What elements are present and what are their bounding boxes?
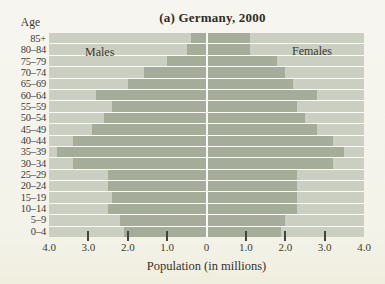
age-tick-label: 20–24 bbox=[0, 180, 46, 191]
x-tick-label: 2.0 bbox=[268, 241, 302, 253]
age-tick-label: 15–19 bbox=[0, 192, 46, 203]
female-bar bbox=[207, 215, 286, 225]
x-tick-label: 3.0 bbox=[308, 241, 342, 253]
males-series-label: Males bbox=[85, 45, 114, 60]
male-bar bbox=[112, 192, 207, 202]
female-bar bbox=[207, 181, 298, 191]
male-bar bbox=[73, 136, 207, 146]
x-axis-tick bbox=[284, 231, 286, 241]
female-bar bbox=[207, 67, 286, 77]
female-bar bbox=[207, 33, 250, 43]
female-bar bbox=[207, 136, 333, 146]
female-bar bbox=[207, 192, 298, 202]
age-tick-label: 50–54 bbox=[0, 112, 46, 123]
x-axis-title: Population (in millions) bbox=[49, 259, 364, 274]
age-tick-label: 60–64 bbox=[0, 90, 46, 101]
male-bar bbox=[92, 124, 206, 134]
female-bar bbox=[207, 79, 294, 89]
male-bar bbox=[73, 158, 207, 168]
age-axis-label: Age bbox=[0, 16, 40, 28]
x-tick-label: 1.0 bbox=[150, 241, 184, 253]
male-bar bbox=[96, 90, 206, 100]
female-bar bbox=[207, 44, 250, 54]
age-tick-label: 35–39 bbox=[0, 146, 46, 157]
age-tick-label: 70–74 bbox=[0, 67, 46, 78]
female-bar bbox=[207, 170, 298, 180]
chart-title: (a) Germany, 2000 bbox=[55, 10, 370, 26]
age-tick-label: 40–44 bbox=[0, 135, 46, 146]
x-tick-label: 0 bbox=[190, 241, 224, 253]
female-bar bbox=[207, 124, 317, 134]
x-axis-tick bbox=[87, 231, 89, 241]
age-tick-label: 85+ bbox=[0, 33, 46, 44]
male-bar bbox=[167, 56, 206, 66]
x-axis-tick bbox=[127, 231, 129, 241]
male-bar bbox=[120, 215, 207, 225]
x-tick-label: 3.0 bbox=[71, 241, 105, 253]
x-axis-tick bbox=[166, 231, 168, 241]
age-tick-label: 30–34 bbox=[0, 158, 46, 169]
female-bar bbox=[207, 147, 345, 157]
age-tick-label: 25–29 bbox=[0, 169, 46, 180]
x-tick-label: 4.0 bbox=[32, 241, 66, 253]
age-tick-label: 5–9 bbox=[0, 214, 46, 225]
female-bar bbox=[207, 56, 278, 66]
age-tick-label: 65–69 bbox=[0, 78, 46, 89]
x-tick-label: 1.0 bbox=[229, 241, 263, 253]
age-tick-labels: 85+80–8475–7970–7465–6960–6455–5950–5445… bbox=[0, 33, 46, 237]
male-bar bbox=[191, 33, 207, 43]
male-bar bbox=[57, 147, 207, 157]
x-axis-tick bbox=[324, 231, 326, 241]
male-bar bbox=[187, 44, 207, 54]
x-axis-tick bbox=[245, 231, 247, 241]
x-tick-label: 4.0 bbox=[347, 241, 381, 253]
females-series-label: Females bbox=[292, 44, 332, 59]
female-bar bbox=[207, 158, 333, 168]
male-bar bbox=[108, 181, 206, 191]
age-tick-label: 10–14 bbox=[0, 203, 46, 214]
female-bar bbox=[207, 204, 298, 214]
x-tick-label: 2.0 bbox=[111, 241, 145, 253]
zero-axis-line bbox=[206, 33, 208, 237]
male-bar bbox=[104, 113, 206, 123]
age-tick-label: 75–79 bbox=[0, 56, 46, 67]
female-bar bbox=[207, 90, 317, 100]
male-bar bbox=[128, 79, 207, 89]
male-bar bbox=[108, 204, 206, 214]
female-bar bbox=[207, 101, 298, 111]
male-bar bbox=[112, 101, 207, 111]
male-bar bbox=[108, 170, 206, 180]
female-bar bbox=[207, 113, 305, 123]
population-pyramid-figure: (a) Germany, 2000 Age 85+80–8475–7970–74… bbox=[0, 0, 385, 284]
age-tick-label: 55–59 bbox=[0, 101, 46, 112]
male-bar bbox=[144, 67, 207, 77]
age-tick-label: 80–84 bbox=[0, 44, 46, 55]
age-tick-label: 0–4 bbox=[0, 226, 46, 237]
age-tick-label: 45–49 bbox=[0, 124, 46, 135]
plot-area: Males Females bbox=[49, 33, 364, 237]
